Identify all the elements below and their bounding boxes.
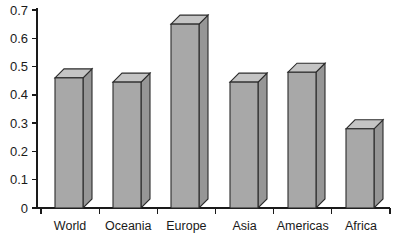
y-tick-label: 0.4 xyxy=(10,87,28,102)
bar-front-face xyxy=(113,82,141,208)
bar-side-face xyxy=(199,15,208,208)
bar-europe xyxy=(171,15,208,208)
bar-side-face xyxy=(141,73,150,208)
bar-africa xyxy=(346,120,383,208)
bar-front-face xyxy=(55,78,83,208)
bar-world xyxy=(55,69,92,208)
y-tick-label: 0.7 xyxy=(10,3,28,18)
x-category-label: Oceania xyxy=(105,219,152,233)
bar-front-face xyxy=(230,82,258,208)
y-tick-label: 0.3 xyxy=(10,116,28,131)
bar-side-face xyxy=(374,120,383,208)
x-category-label: Europe xyxy=(166,219,206,233)
bar-front-face xyxy=(346,129,374,208)
bar-oceania xyxy=(113,73,150,208)
y-tick-label: 0.5 xyxy=(10,59,28,74)
x-category-label: Africa xyxy=(345,219,377,233)
bar-side-face xyxy=(83,69,92,208)
bar-chart: 00.10.20.30.40.50.60.7WorldOceaniaEurope… xyxy=(0,0,397,241)
y-tick-label: 0 xyxy=(21,201,28,216)
bar-side-face xyxy=(316,63,325,208)
x-category-label: Asia xyxy=(232,219,256,233)
bar-americas xyxy=(288,63,325,208)
y-tick-label: 0.6 xyxy=(10,31,28,46)
bar-front-face xyxy=(288,72,316,208)
bar-front-face xyxy=(171,24,199,208)
bar-asia xyxy=(230,73,267,208)
x-category-label: World xyxy=(54,219,86,233)
y-tick-label: 0.2 xyxy=(10,144,28,159)
bar-side-face xyxy=(258,73,267,208)
y-tick-label: 0.1 xyxy=(10,172,28,187)
chart-canvas: 00.10.20.30.40.50.60.7WorldOceaniaEurope… xyxy=(0,0,397,241)
x-category-label: Americas xyxy=(277,219,329,233)
